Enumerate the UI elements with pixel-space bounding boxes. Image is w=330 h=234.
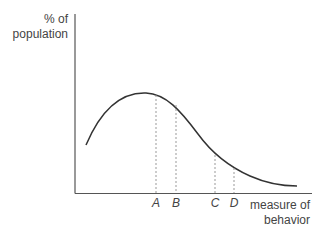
x-label-line1: measure of [246, 198, 310, 213]
marker-d-label: D [230, 196, 239, 210]
y-label-line2: population [13, 27, 68, 42]
x-label-line2: behavior [246, 213, 310, 228]
x-axis-label: measure of behavior [246, 198, 310, 228]
marker-b-label: B [172, 196, 180, 210]
marker-a-label: A [152, 196, 160, 210]
marker-c-label: C [211, 196, 220, 210]
marker-lines [156, 95, 234, 193]
y-axis-label: % of population [13, 12, 68, 42]
distribution-curve [86, 93, 297, 186]
y-label-line1: % of [13, 12, 68, 27]
